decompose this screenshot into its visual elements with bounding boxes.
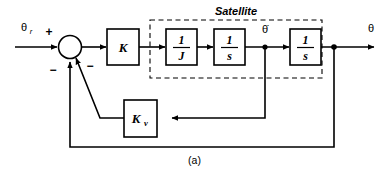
rate-signal-label: θ̇: [262, 23, 269, 35]
input-signal-label: θ: [21, 21, 27, 33]
block-integrator-1-numerator: 1: [227, 33, 233, 47]
wire-kv-to-sum: [76, 58, 124, 118]
sum-sign-input: +: [45, 25, 52, 39]
figure-caption: (a): [188, 154, 201, 166]
sum-sign-rate-feedback: −: [86, 59, 93, 73]
block-inertia-numerator: 1: [179, 33, 185, 47]
block-rate-gain: [124, 100, 157, 137]
block-rate-gain-label: K: [131, 111, 142, 126]
block-diagram-figure: Satellite θ r + − − K 1 J 1 s θ̇: [0, 0, 389, 174]
block-inertia-denominator: J: [178, 49, 186, 63]
satellite-group-label: Satellite: [215, 5, 257, 17]
input-signal-subscript: r: [30, 27, 33, 36]
block-diagram-canvas: Satellite θ r + − − K 1 J 1 s θ̇: [0, 0, 389, 174]
block-integrator-2-numerator: 1: [303, 33, 309, 47]
block-gain-k-label: K: [118, 40, 129, 55]
block-integrator-2-denominator: s: [302, 49, 308, 63]
summing-junction: [59, 36, 82, 59]
block-integrator-1-denominator: s: [226, 49, 232, 63]
block-rate-gain-subscript: v: [144, 118, 148, 128]
output-signal-label: θ: [368, 22, 374, 34]
sum-sign-outer-feedback: −: [49, 63, 56, 77]
